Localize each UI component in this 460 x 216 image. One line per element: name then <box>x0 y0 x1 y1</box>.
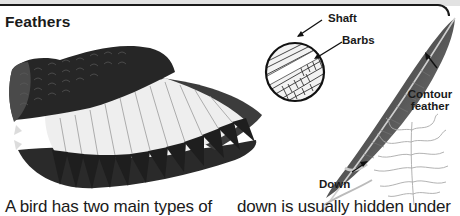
label-contour-line2: feather <box>404 100 456 112</box>
feather-magnified-circle <box>260 20 342 106</box>
body-text-right-column: down is usually hidden under <box>237 197 451 216</box>
label-down: Down <box>319 178 350 190</box>
bird-wing-illustration <box>9 46 262 189</box>
label-contour-line1: Contour <box>404 88 456 100</box>
label-barbs: Barbs <box>342 34 375 46</box>
label-contour-feather: Contour feather <box>404 88 456 112</box>
illustration-canvas <box>0 0 460 216</box>
label-shaft: Shaft <box>328 12 357 24</box>
body-text-left-column: A bird has two main types of <box>5 197 212 216</box>
